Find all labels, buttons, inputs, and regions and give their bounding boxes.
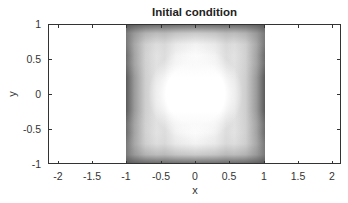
- x-tick-label: 0: [192, 170, 198, 182]
- x-tick-label: 1.5: [291, 170, 306, 182]
- x-tick-label: 0.5: [222, 170, 237, 182]
- x-tick-label: -0.5: [152, 170, 170, 182]
- y-tick-label: 1: [0, 18, 41, 30]
- x-axis-label: x: [192, 184, 198, 196]
- heatmap-field: [126, 25, 265, 163]
- x-tick-label: 1: [261, 170, 267, 182]
- y-tick-label: -0.5: [0, 123, 41, 135]
- x-tick-label: 2: [329, 170, 335, 182]
- y-tick-label: -1: [0, 158, 41, 170]
- y-tick-label: 0.5: [0, 53, 41, 65]
- chart-title: Initial condition: [48, 6, 341, 18]
- y-axis-label: y: [6, 91, 18, 97]
- x-tick-label: -2: [53, 170, 62, 182]
- x-tick-label: -1.5: [83, 170, 101, 182]
- plot-area: [48, 24, 341, 164]
- x-tick-label: -1: [121, 170, 130, 182]
